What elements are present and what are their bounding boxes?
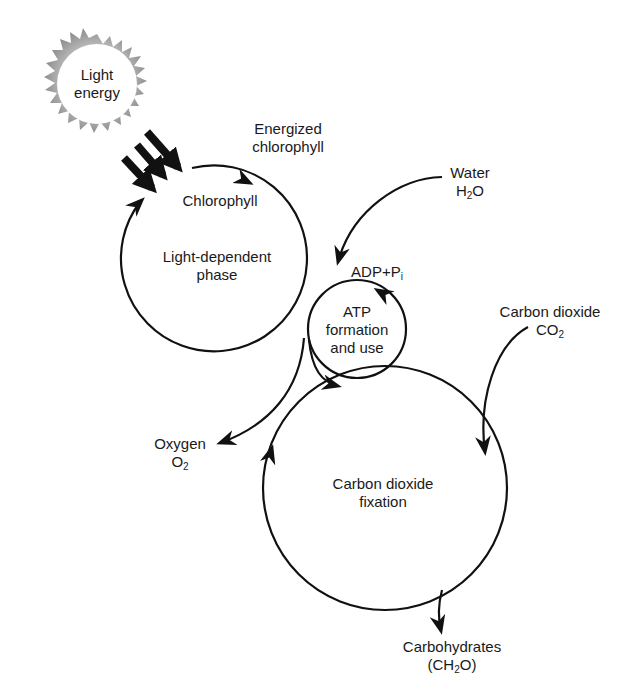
oxygen-label: Oxygen O2: [145, 435, 215, 471]
light-dependent-phase-label: Light-dependent phase: [152, 248, 282, 284]
carbon-dioxide-label: Carbon dioxide CO2: [490, 303, 610, 339]
atp-formation-label: ATP formation and use: [317, 303, 397, 357]
energized-chlorophyll-label: Energized chlorophyll: [238, 120, 338, 156]
water-arrow: [338, 177, 442, 262]
carbohydrates-label: Carbohydrates (CH2O): [392, 638, 512, 674]
adp-pi-label: ADP+Pi: [342, 263, 412, 281]
chlorophyll-label: Chlorophyll: [175, 192, 265, 210]
light-energy-label: Light energy: [66, 66, 128, 102]
oxygen-arrow: [220, 338, 304, 443]
co2-arrow: [483, 327, 528, 452]
light-rays-arrows: [124, 132, 178, 188]
water-label: Water H2O: [440, 164, 500, 200]
co2-fixation-label: Carbon dioxide fixation: [318, 475, 448, 511]
